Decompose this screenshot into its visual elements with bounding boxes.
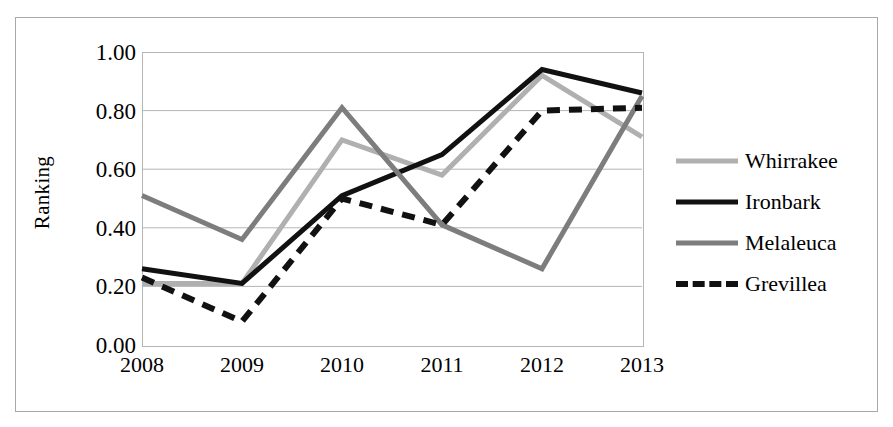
series-line-ironbark bbox=[142, 70, 642, 284]
plot-lines bbox=[142, 52, 642, 345]
chart-legend: WhirrakeeIronbarkMelaleucaGrevillea bbox=[676, 140, 876, 304]
x-axis-tick-label: 2012 bbox=[497, 352, 587, 378]
series-line-whirrakee bbox=[142, 75, 642, 283]
legend-label: Melaleuca bbox=[745, 232, 837, 254]
legend-label: Ironbark bbox=[745, 191, 821, 213]
x-axis-tick-label: 2013 bbox=[597, 352, 687, 378]
legend-item-ironbark[interactable]: Ironbark bbox=[676, 181, 876, 222]
legend-label: Grevillea bbox=[745, 273, 827, 295]
x-axis-tick-label: 2009 bbox=[197, 352, 287, 378]
series-line-grevillea bbox=[142, 108, 642, 322]
legend-item-melaleuca[interactable]: Melaleuca bbox=[676, 222, 876, 263]
chart-figure: Ranking 1.000.800.600.400.200.00 2008200… bbox=[0, 0, 893, 427]
x-axis-tick-label: 2010 bbox=[297, 352, 387, 378]
legend-swatch-icon bbox=[676, 279, 738, 289]
legend-swatch-icon bbox=[676, 156, 738, 166]
legend-item-grevillea[interactable]: Grevillea bbox=[676, 263, 876, 304]
x-axis-tick-label: 2008 bbox=[97, 352, 187, 378]
legend-swatch-icon bbox=[676, 197, 738, 207]
legend-label: Whirrakee bbox=[745, 150, 838, 172]
legend-item-whirrakee[interactable]: Whirrakee bbox=[676, 140, 876, 181]
x-axis-tick-label: 2011 bbox=[397, 352, 487, 378]
legend-swatch-icon bbox=[676, 238, 738, 248]
series-line-melaleuca bbox=[142, 96, 642, 269]
